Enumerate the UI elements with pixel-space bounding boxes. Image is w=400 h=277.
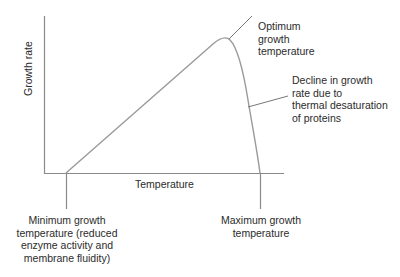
optimum-leader-line — [229, 16, 252, 39]
decline-annotation: Decline in growth rate due to thermal de… — [292, 74, 388, 124]
minimum-annotation: Minimum growth temperature (reduced enzy… — [8, 214, 126, 264]
maximum-annotation: Maximum growth temperature — [214, 214, 308, 239]
optimum-annotation: Optimum growth temperature — [258, 20, 315, 58]
growth-temperature-diagram: Growth rate Temperature Optimum growth t… — [0, 0, 400, 277]
decline-leader-line — [248, 96, 288, 107]
growth-curve — [66, 38, 260, 173]
x-axis-label: Temperature — [135, 178, 194, 191]
y-axis-label: Growth rate — [22, 41, 34, 96]
